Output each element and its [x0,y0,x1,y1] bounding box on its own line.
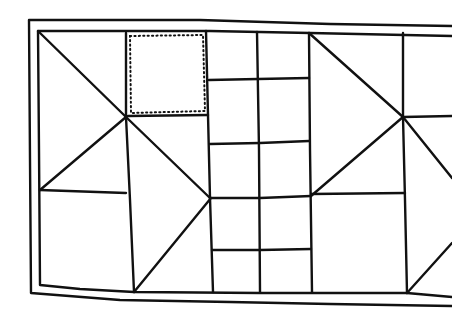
right-block [309,33,452,293]
left-block [38,31,211,292]
quilt-drawing [0,0,452,321]
outer-border [29,20,452,306]
middle-grid [206,31,312,292]
dotted-square [130,35,205,113]
quilt-pattern-svg [0,0,452,321]
inner-border [38,31,452,297]
